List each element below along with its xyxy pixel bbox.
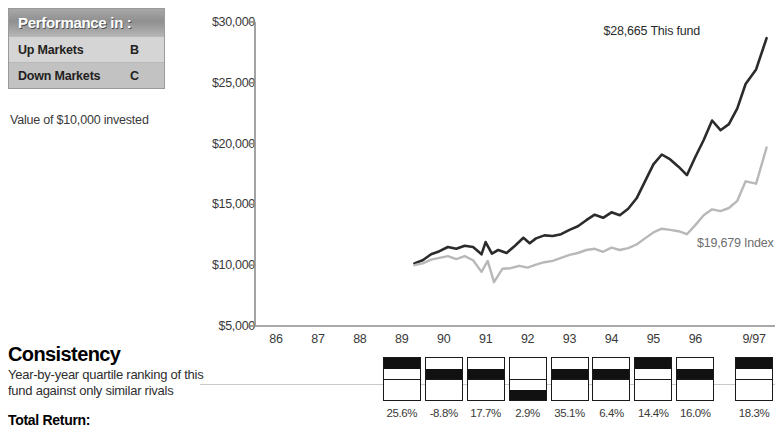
quartile-box <box>509 357 547 401</box>
quartile-segment <box>677 390 713 401</box>
annual-return-value: -8.8% <box>430 407 458 419</box>
quartile-segment <box>510 379 546 390</box>
quartile-segment <box>552 369 588 380</box>
quartile-segment <box>384 369 420 380</box>
quartile-segment <box>426 379 462 390</box>
series-line-index <box>414 148 766 283</box>
x-axis-tick-label: 92 <box>521 332 534 346</box>
quartile-segment <box>736 390 772 401</box>
annual-return-value: 17.7% <box>470 407 501 419</box>
quartile-segment <box>552 379 588 390</box>
quartile-median-line <box>736 379 772 380</box>
quartile-segment <box>593 390 629 401</box>
x-axis-tick-label: 93 <box>563 332 576 346</box>
quartile-segment <box>552 390 588 401</box>
quartile-median-line <box>552 379 588 380</box>
annual-return-value: 2.9% <box>515 407 540 419</box>
quartile-segment <box>468 358 504 369</box>
series-line-this-fund <box>414 38 766 263</box>
quartile-box <box>592 357 630 401</box>
quartile-median-line <box>593 379 629 380</box>
consistency-section: Consistency Year-by-year quartile rankin… <box>8 343 358 399</box>
x-axis-tick-label: 9/97 <box>742 332 765 346</box>
quartile-box <box>467 357 505 401</box>
quartile-box <box>383 357 421 401</box>
quartile-segment <box>426 390 462 401</box>
quartile-median-line <box>510 379 546 380</box>
chart-plot-area <box>0 0 777 360</box>
growth-of-10000-chart: $5,000$10,000$15,000$20,000$25,000$30,00… <box>0 0 777 360</box>
quartile-segment <box>468 379 504 390</box>
total-return-label: Total Return: <box>8 412 90 428</box>
quartile-segment <box>384 390 420 401</box>
quartile-median-line <box>426 379 462 380</box>
annual-return-value: 16.0% <box>680 407 711 419</box>
annual-return-value: 35.1% <box>554 407 585 419</box>
quartile-segment <box>593 358 629 369</box>
annual-return-value: 6.4% <box>599 407 624 419</box>
quartile-median-line <box>677 379 713 380</box>
quartile-segment <box>736 369 772 380</box>
quartile-segment <box>552 358 588 369</box>
x-axis-tick-label: 96 <box>689 332 702 346</box>
consistency-description-line2: fund against only similar rivals <box>8 383 358 399</box>
x-axis-tick-label: 95 <box>647 332 660 346</box>
quartile-segment <box>593 379 629 390</box>
series-label-index: $19,679 Index <box>697 236 774 250</box>
quartile-box <box>634 357 672 401</box>
x-axis-tick-label: 89 <box>395 332 408 346</box>
quartile-box <box>676 357 714 401</box>
quartile-segment <box>384 379 420 390</box>
quartile-segment <box>510 358 546 369</box>
series-label-this-fund: $28,665 This fund <box>604 24 700 38</box>
quartile-segment <box>593 369 629 380</box>
quartile-segment <box>510 390 546 401</box>
annual-return-value: 14.4% <box>638 407 669 419</box>
quartile-segment <box>635 369 671 380</box>
quartile-segment <box>426 369 462 380</box>
quartile-segment <box>426 358 462 369</box>
quartile-segment <box>677 369 713 380</box>
quartile-segment <box>384 358 420 369</box>
quartile-segment <box>635 379 671 390</box>
x-axis-tick-label: 91 <box>479 332 492 346</box>
x-axis-tick-label: 94 <box>605 332 618 346</box>
quartile-segment <box>677 358 713 369</box>
quartile-segment <box>468 369 504 380</box>
consistency-description-line1: Year-by-year quartile ranking of this <box>8 367 358 383</box>
quartile-segment <box>736 379 772 390</box>
x-axis-tick-label: 90 <box>437 332 450 346</box>
quartile-median-line <box>468 379 504 380</box>
annual-return-value: 25.6% <box>386 407 417 419</box>
annual-return-value: 18.3% <box>739 407 770 419</box>
quartile-segment <box>635 390 671 401</box>
quartile-segment <box>677 379 713 390</box>
quartile-box <box>425 357 463 401</box>
quartile-segment <box>736 358 772 369</box>
quartile-box <box>735 357 773 401</box>
quartile-median-line <box>384 379 420 380</box>
quartile-median-line <box>635 379 671 380</box>
quartile-segment <box>510 369 546 380</box>
quartile-box <box>551 357 589 401</box>
consistency-description: Year-by-year quartile ranking of this fu… <box>8 367 358 399</box>
quartile-segment <box>635 358 671 369</box>
consistency-heading: Consistency <box>8 343 358 365</box>
quartile-segment <box>468 390 504 401</box>
